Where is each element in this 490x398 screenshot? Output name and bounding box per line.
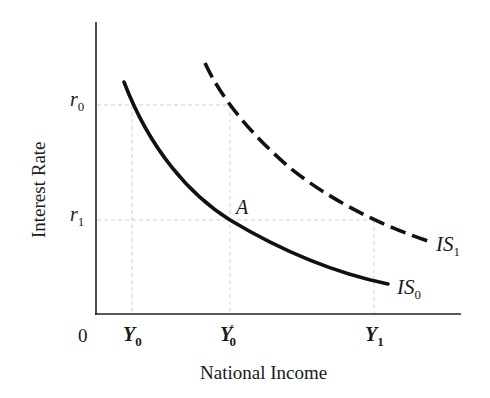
tick-r0-sub: 0 (78, 99, 85, 114)
tick-r0-base: r (70, 88, 78, 110)
tick-y1-sub: 1 (377, 334, 384, 349)
is1-label-sub: 1 (454, 244, 461, 259)
is1-label-base: IS (436, 232, 454, 256)
tick-y0-base: Y (123, 323, 135, 345)
x-axis-title: National Income (200, 362, 327, 384)
is0-label: IS0 (397, 275, 421, 300)
is0-label-base: IS (397, 275, 415, 299)
tick-y0: Y0 (123, 323, 142, 346)
tick-y0p-sub: 0 (230, 334, 237, 349)
y-axis-title: Interest Rate (28, 141, 50, 238)
tick-r1: r1 (70, 203, 84, 226)
origin-label: 0 (78, 325, 88, 347)
is0-curve (124, 82, 388, 284)
tick-r1-base: r (70, 203, 78, 225)
tick-r0: r0 (70, 88, 84, 111)
is1-label: IS1 (436, 232, 460, 257)
tick-r1-sub: 1 (78, 214, 85, 229)
is0-label-sub: 0 (415, 287, 422, 302)
point-a-label: A (236, 196, 248, 219)
tick-y0-sub: 0 (135, 334, 142, 349)
tick-y1: Y1 (365, 323, 384, 346)
tick-y1-base: Y (365, 323, 377, 345)
tick-y0-prime: Y′0 (220, 323, 236, 346)
